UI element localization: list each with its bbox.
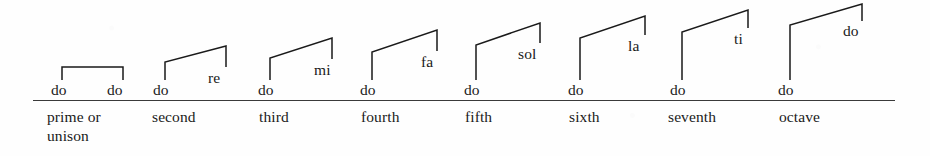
interval-diagram-figure: dodoprime orunisondoreseconddomithirddof…: [0, 0, 930, 156]
interval-bracket-prime-or-unison: [62, 67, 123, 80]
upper-note-label-fifth: sol: [518, 46, 536, 62]
interval-name-line1: fourth: [361, 108, 399, 125]
lower-note-label-fifth: do: [464, 82, 480, 98]
interval-name-second: second: [152, 108, 196, 127]
lower-note-label-third: do: [258, 82, 274, 98]
interval-name-line1: seventh: [668, 108, 716, 125]
interval-name-line1: sixth: [569, 108, 600, 125]
lower-note-label-fourth: do: [360, 82, 376, 98]
interval-name-seventh: seventh: [668, 108, 716, 127]
upper-note-label-seventh: ti: [734, 31, 743, 47]
interval-name-line1: third: [259, 108, 289, 125]
interval-name-line1: second: [152, 108, 196, 125]
interval-name-line2: unison: [47, 127, 101, 146]
interval-name-third: third: [259, 108, 289, 127]
lower-note-label-prime-or-unison: do: [51, 82, 67, 98]
interval-name-line1: fifth: [465, 108, 492, 125]
upper-note-label-third: mi: [314, 62, 331, 78]
baseline-rule: [33, 100, 895, 101]
lower-note-label-octave: do: [778, 82, 794, 98]
lower-note-label-seventh: do: [670, 82, 686, 98]
lower-note-label-sixth: do: [568, 82, 584, 98]
upper-note-label-prime-or-unison: do: [107, 82, 123, 98]
bracket-layer: [0, 0, 930, 156]
interval-name-prime-or-unison: prime orunison: [47, 108, 101, 146]
upper-note-label-octave: do: [843, 23, 859, 39]
interval-name-octave: octave: [779, 108, 820, 127]
interval-name-fourth: fourth: [361, 108, 399, 127]
lower-note-label-second: do: [153, 82, 169, 98]
interval-name-line1: octave: [779, 108, 820, 125]
interval-name-sixth: sixth: [569, 108, 600, 127]
interval-name-fifth: fifth: [465, 108, 492, 127]
interval-bracket-octave: [790, 4, 862, 80]
upper-note-label-sixth: la: [628, 38, 639, 54]
interval-name-line1: prime or: [47, 108, 101, 125]
paper-texture-overlay: [0, 0, 930, 156]
upper-note-label-second: re: [208, 70, 220, 86]
upper-note-label-fourth: fa: [421, 54, 433, 70]
